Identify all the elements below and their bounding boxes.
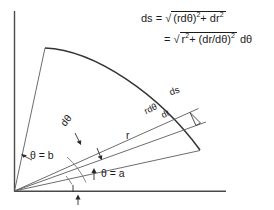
formula-line-2: = √r2+ (dr/dθ)2dθ — [164, 32, 252, 45]
sqrt-symbol-2: √ — [174, 34, 180, 45]
arrowhead-axis-2 — [75, 195, 80, 200]
polar-curve-arc — [45, 48, 200, 150]
sqrt-symbol-1: √ — [165, 13, 171, 24]
arrowhead-theta-a — [91, 168, 96, 173]
formula-line-1-term-2: + dr — [200, 12, 219, 24]
formula-line-1-exp-2: 2 — [220, 11, 224, 18]
formula-line-2-radicand: r2+ (dr/dθ)2 — [180, 32, 237, 45]
label-theta-a: θ = a — [101, 168, 125, 179]
formula-line-2-term-2: + (dr/dθ) — [189, 33, 231, 45]
segment-r-dtheta — [190, 113, 196, 126]
formula-line-2-exp-2: 2 — [231, 32, 235, 39]
angle-arc-theta-a — [66, 176, 72, 185]
label-theta-b: θ = b — [30, 150, 54, 161]
segment-ds — [190, 113, 201, 124]
formula-line-1-radicand: (rdθ)2+ dr2 — [171, 11, 225, 24]
ray-theta-b — [15, 48, 46, 191]
formula-line-2-lhs: = — [164, 33, 170, 45]
formula-line-1-term-1: (rdθ) — [173, 12, 196, 24]
formula-line-2-tail: dθ — [240, 33, 252, 45]
label-r: r — [126, 130, 130, 141]
formula-line-1-lhs: ds = — [141, 12, 162, 24]
formula-line-1: ds = √(rdθ)2+ dr2 — [141, 11, 226, 24]
